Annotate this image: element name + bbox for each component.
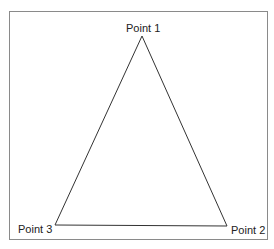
triangle-diagram — [0, 0, 274, 249]
triangle-shape — [55, 36, 227, 226]
point-3-label: Point 3 — [18, 224, 52, 235]
point-2-label: Point 2 — [231, 225, 265, 236]
point-1-label: Point 1 — [126, 23, 160, 34]
